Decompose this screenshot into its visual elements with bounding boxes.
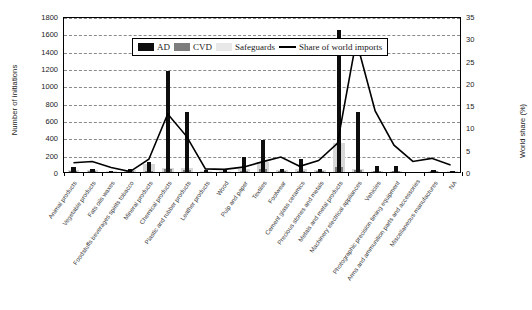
gridline	[64, 35, 460, 36]
x-tick-label: Mineral products	[80, 179, 155, 281]
bar-ad	[185, 112, 189, 172]
gridline	[64, 18, 460, 19]
y-axis-right-title: World share (%)	[518, 0, 527, 48]
legend-label: Safeguards	[235, 42, 275, 52]
y-tick-right-30: 30	[466, 35, 474, 44]
gridline	[64, 105, 460, 106]
x-tick	[140, 172, 141, 176]
x-tick	[197, 172, 198, 176]
legend-item-cvd: CVD	[174, 42, 212, 52]
bar-ad	[394, 166, 398, 173]
gridline	[64, 87, 460, 88]
bar-ad	[318, 169, 322, 172]
x-tick-label: Cement glass ceramics	[231, 179, 306, 281]
x-tick	[178, 172, 179, 176]
bar-ad	[280, 169, 284, 172]
bar-ad	[90, 169, 94, 172]
x-tick-label: Machinery electrical appliances	[288, 179, 363, 281]
legend-swatch-cvd-icon	[174, 43, 190, 51]
x-tick-label: Footwear	[212, 179, 287, 281]
legend-label: Share of world imports	[299, 42, 382, 52]
bar-ad	[375, 166, 379, 172]
x-tick	[216, 172, 217, 176]
x-tick-label: Foodstuffs beverages spirits tobacco	[61, 179, 136, 281]
legend-item-sg: Safeguards	[216, 42, 275, 52]
x-tick	[159, 172, 160, 176]
bar-ad	[128, 169, 132, 172]
x-tick	[64, 172, 65, 176]
bar-ad	[147, 162, 151, 172]
y-tick-left-400: 400	[28, 134, 58, 143]
bar-ad	[109, 171, 113, 172]
x-tick-label: Chemical products	[99, 179, 174, 281]
legend-swatch-sg-icon	[216, 43, 232, 51]
bar-ad	[356, 112, 360, 172]
x-tick	[102, 172, 103, 176]
bar-ad	[166, 71, 170, 172]
plot-area: ADCVDSafeguardsShare of world imports	[63, 17, 461, 173]
x-tick	[121, 172, 122, 176]
y-tick-right-15: 15	[466, 102, 474, 111]
y-tick-right-10: 10	[466, 124, 474, 133]
legend-item-line: Share of world imports	[279, 42, 382, 52]
y-tick-right-5: 5	[466, 147, 470, 156]
x-tick-label: Vegetable products	[23, 179, 98, 281]
y-tick-left-1800: 1800	[28, 13, 58, 22]
y-tick-right-0: 0	[466, 169, 470, 178]
x-tick-label: NA	[383, 179, 458, 281]
x-tick-label: Arms and ammunition parts and accessorie…	[345, 179, 420, 281]
legend-label: AD	[157, 42, 170, 52]
x-tick-label: Photographic precision timing equipment	[326, 179, 401, 281]
x-tick	[310, 172, 311, 176]
x-tick	[405, 172, 406, 176]
bar-ad	[450, 171, 454, 172]
x-tick	[291, 172, 292, 176]
x-tick	[443, 172, 444, 176]
legend-label: CVD	[193, 42, 212, 52]
x-tick	[254, 172, 255, 176]
gridline	[64, 122, 460, 123]
y-tick-right-20: 20	[466, 80, 474, 89]
x-tick-label: Wood	[155, 179, 230, 281]
x-tick	[424, 172, 425, 176]
x-tick	[329, 172, 330, 176]
legend-item-ad: AD	[138, 42, 170, 52]
y-tick-left-1200: 1200	[28, 65, 58, 74]
y-tick-left-800: 800	[28, 100, 58, 109]
bar-ad	[431, 170, 435, 172]
y-tick-left-600: 600	[28, 117, 58, 126]
y-tick-left-1000: 1000	[28, 82, 58, 91]
chart-figure: Number of initiations World share (%) 02…	[0, 0, 532, 310]
y-tick-left-1400: 1400	[28, 48, 58, 57]
y-tick-left-200: 200	[28, 152, 58, 161]
x-tick	[367, 172, 368, 176]
x-tick-label: Fats oils waxes	[42, 179, 117, 281]
x-tick-label: Miscellaneous manufactures	[364, 179, 439, 281]
x-tick	[386, 172, 387, 176]
legend-swatch-line-icon	[279, 46, 296, 48]
gridline	[64, 70, 460, 71]
y-tick-right-25: 25	[466, 58, 474, 67]
y-tick-left-0: 0	[28, 169, 58, 178]
chart-legend: ADCVDSafeguardsShare of world imports	[132, 38, 388, 56]
bar-ad	[71, 167, 75, 172]
bar-ad	[242, 157, 246, 172]
x-tick-label: Animal products	[4, 179, 79, 281]
x-tick	[272, 172, 273, 176]
x-tick-label: Textiles	[193, 179, 268, 281]
bar-ad	[223, 170, 227, 172]
x-tick-label: Pulp and paper	[174, 179, 249, 281]
y-axis-left-title: Number of initiations	[10, 0, 19, 40]
x-tick-label: Leather products	[136, 179, 211, 281]
bar-ad	[261, 140, 265, 173]
bar-ad	[204, 170, 208, 172]
x-tick	[348, 172, 349, 176]
y-tick-right-35: 35	[466, 13, 474, 22]
x-tick	[83, 172, 84, 176]
y-tick-left-1600: 1600	[28, 30, 58, 39]
bar-ad	[299, 159, 303, 172]
x-tick-label: Metals and metal products	[269, 179, 344, 281]
x-tick	[462, 172, 463, 176]
x-tick-label: Precious stones and metals	[250, 179, 325, 281]
x-tick-label: Plastic and rubber products	[117, 179, 192, 281]
